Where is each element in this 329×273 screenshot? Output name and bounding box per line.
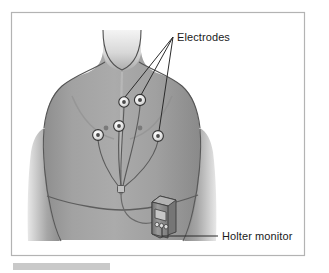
figure-root: Electrodes Holter monitor	[0, 0, 329, 273]
label-holter-monitor: Holter monitor	[222, 230, 293, 242]
medical-illustration: Electrodes Holter monitor	[0, 0, 329, 273]
monitor-button-2	[160, 223, 164, 228]
nipple-right	[104, 126, 109, 131]
holter-monitor-device	[152, 196, 176, 238]
nipple-left	[138, 126, 143, 131]
cable-junction	[118, 186, 125, 193]
label-electrodes: Electrodes	[177, 31, 230, 43]
monitor-button-3	[164, 224, 168, 229]
caption-bar	[13, 263, 110, 270]
electrode-lower-left	[153, 131, 164, 142]
monitor-button-1	[155, 222, 159, 227]
neck	[103, 30, 141, 71]
electrode-lower-right	[93, 130, 104, 141]
electrode-upper-right	[119, 97, 129, 107]
electrode-upper-left	[134, 94, 145, 105]
electrode-mid-center	[114, 121, 125, 132]
